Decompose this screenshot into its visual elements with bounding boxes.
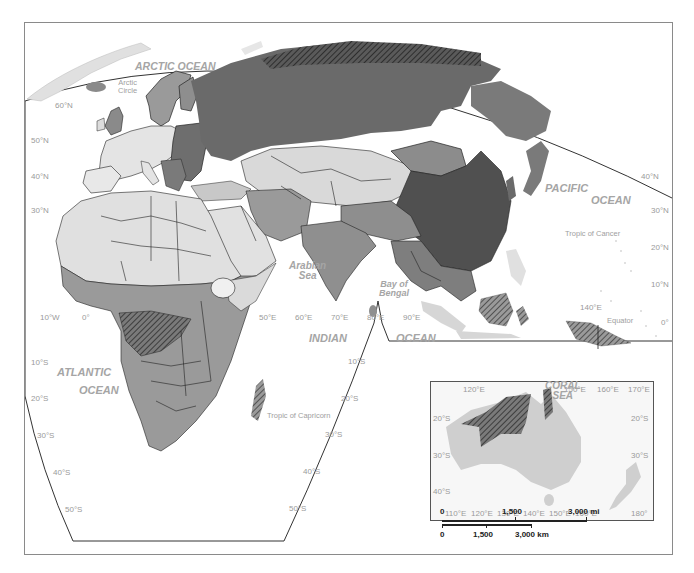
lon-90e-label: 90°E [403, 314, 420, 322]
scale-km-3000: 3,000 km [515, 530, 549, 539]
atlantic-ocean-label-2: OCEAN [79, 385, 119, 396]
scale-mi-3000: 3,000 mi [568, 507, 600, 516]
scale-km-tick-mid [486, 524, 487, 528]
inset-20s-right: 20°S [631, 415, 648, 423]
scale-km-tick-end [531, 524, 532, 528]
scale-mi-tick-mid [515, 517, 516, 521]
inset-120e-top: 120°E [463, 386, 485, 394]
pacific-ocean-label-2: OCEAN [591, 195, 631, 206]
scale-km-bar [442, 524, 532, 526]
uk [105, 107, 123, 135]
lon-50e-label: 50°E [259, 314, 276, 322]
lat-50n-label: 50°N [31, 137, 49, 145]
lat-20s-left-label: 20°S [31, 395, 48, 403]
balkans [161, 159, 186, 191]
indian-ocean-label-1: INDIAN [309, 333, 347, 344]
lat-30n-label: 30°N [31, 207, 49, 215]
atlantic-ocean-label-1: ATLANTIC [57, 367, 111, 378]
scale-mi-tick-end [586, 517, 587, 521]
lat-50s-indian-label: 50°S [289, 505, 306, 513]
lat-20s-indian-label: 20°S [341, 395, 358, 403]
scale-km-0: 0 [440, 530, 444, 539]
map-frame: ARCTIC OCEAN Arctic Circle PACIFIC OCEAN… [24, 22, 673, 555]
ethiopia-highlands [211, 278, 235, 298]
new-zealand [609, 462, 641, 510]
philippines [506, 249, 526, 286]
australia-inset: 120°E 150°E 160°E 170°E 20°S 30°S 40°S 2… [430, 381, 654, 521]
arabian-sea-label: Arabian Sea [289, 261, 326, 281]
lon-0-label: 0° [82, 314, 90, 322]
arabian-sea-line2: Sea [289, 271, 326, 281]
lon-70e-label: 70°E [331, 314, 348, 322]
lon-60e-label: 60°E [295, 314, 312, 322]
inset-20s-left: 20°S [433, 415, 450, 423]
arctic-circle-label: Arctic Circle [118, 79, 137, 94]
java [456, 331, 521, 339]
iberia [83, 166, 121, 193]
turkey [191, 181, 251, 201]
lat-40s-indian-label: 40°S [303, 468, 320, 476]
inset-40s-left: 40°S [433, 488, 450, 496]
lat-0-right-label: 0° [661, 319, 669, 327]
arctic-circle-line2: Circle [118, 87, 137, 95]
lat-40n-label: 40°N [31, 173, 49, 181]
pacific-ocean-label-1: PACIFIC [545, 183, 588, 194]
tasmania [544, 494, 554, 506]
novaya-zemlya [241, 41, 263, 55]
tropic-of-capricorn-label: Tropic of Capricorn [267, 412, 331, 420]
lon-10w-label: 10°W [40, 314, 60, 322]
inset-30s-left: 30°S [433, 452, 450, 460]
bay-of-bengal-label: Bay of Bengal [379, 280, 409, 298]
lat-10s-left-label: 10°S [31, 359, 48, 367]
inset-30s-right: 30°S [631, 452, 648, 460]
bay-of-bengal-line2: Bengal [379, 289, 409, 298]
coral-sea-line2: SEA [545, 391, 581, 401]
lat-20n-right-label: 20°N [651, 244, 669, 252]
borneo [479, 293, 513, 326]
scale-mi-1500: 1,500 [502, 507, 522, 516]
lat-60n-label: 60°N [55, 102, 73, 110]
lat-30n-right-label: 30°N [651, 207, 669, 215]
lat-10s-indian-label: 10°S [348, 358, 365, 366]
iceland [86, 82, 106, 92]
lon-80e-label: 80°E [367, 314, 384, 322]
sulawesi [516, 306, 529, 326]
lat-50s-left-label: 50°S [65, 506, 82, 514]
scale-km-tick-start [442, 524, 443, 528]
scale-bar: 0 1,500 3,000 mi 0 1,500 3,000 km [440, 507, 640, 547]
coral-sea-label-text: CORAL SEA [545, 381, 581, 401]
lat-40s-left-label: 40°S [53, 469, 70, 477]
arctic-ocean-label: ARCTIC OCEAN [135, 61, 216, 72]
ireland [97, 118, 105, 131]
inset-170e-top: 170°E [628, 386, 650, 394]
scale-mi-0: 0 [440, 507, 444, 516]
equator-label: Equator [607, 317, 633, 325]
australia-inset-canvas [431, 382, 654, 521]
sumatra [421, 301, 466, 333]
north-africa [56, 191, 241, 286]
scale-km-1500: 1,500 [473, 530, 493, 539]
lon-140e-label: 140°E [580, 304, 602, 312]
lat-40n-right-label: 40°N [641, 173, 659, 181]
madagascar [251, 379, 266, 421]
lat-10n-right-label: 10°N [651, 281, 669, 289]
tropic-of-cancer-label: Tropic of Cancer [565, 230, 620, 238]
indian-ocean-label-2: OCEAN [396, 333, 436, 344]
east-siberia [471, 81, 551, 141]
lat-30s-left-label: 30°S [37, 432, 54, 440]
inset-160e-top: 160°E [597, 386, 619, 394]
lat-30s-indian-label: 30°S [325, 431, 342, 439]
